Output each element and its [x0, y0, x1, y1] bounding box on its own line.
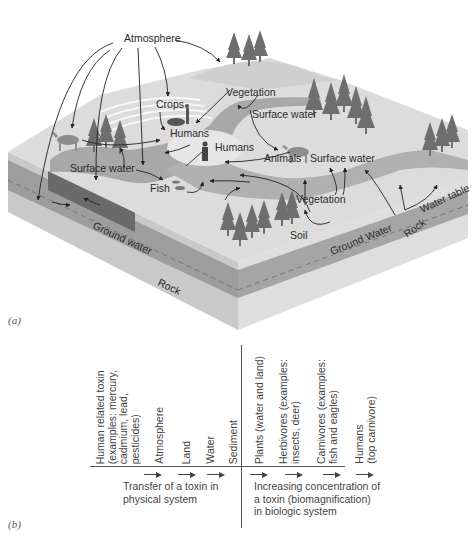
arrow-icon	[207, 474, 223, 475]
column-humans: Humans (top carnivore)	[354, 396, 377, 464]
column-carnivores: Carnivores (examples: fish and eagles)	[316, 359, 339, 464]
arrow-icon	[356, 474, 372, 475]
column-plants: Plants (water and land)	[254, 356, 266, 464]
biomagnification-chart: Human related toxin (examples: mercury, …	[0, 335, 475, 535]
label-humans-1: Humans	[170, 127, 209, 139]
label-crops: Crops	[156, 98, 184, 110]
panel-b-label: (b)	[8, 518, 21, 530]
biologic-system-caption: Increasing concentration of a toxin (bio…	[254, 480, 380, 518]
label-atmosphere: Atmosphere	[124, 32, 181, 44]
label-soil: Soil	[290, 229, 308, 241]
arrow-icon	[323, 474, 339, 475]
label-surface-water-1: Surface water	[252, 108, 317, 120]
label-vegetation-top: Vegetation	[226, 86, 276, 98]
arrow-icon	[178, 474, 194, 475]
arrow-icon	[250, 474, 266, 475]
baseline-divider	[90, 466, 345, 467]
biologic-columns: Plants (water and land) Herbivores (exam…	[0, 335, 475, 464]
label-animals: Animals	[264, 152, 301, 164]
label-humans-2: Humans	[215, 141, 254, 153]
label-surface-water-3: Surface water	[70, 162, 135, 174]
panel-a-label: (a)	[8, 314, 21, 326]
toxin-pathway-block-diagram: Atmosphere Vegetation Crops Humans Surfa…	[0, 0, 475, 340]
arrow-icon	[144, 474, 160, 475]
label-surface-water-2: Surface water	[310, 152, 375, 164]
arrow-icon	[285, 474, 301, 475]
physical-system-caption: Transfer of a toxin in physical system	[123, 480, 218, 505]
label-vegetation-bottom: Vegetation	[296, 193, 346, 205]
column-herbivores: Herbivores (examples: insects, deer)	[278, 359, 301, 464]
label-fish: Fish	[150, 182, 170, 194]
